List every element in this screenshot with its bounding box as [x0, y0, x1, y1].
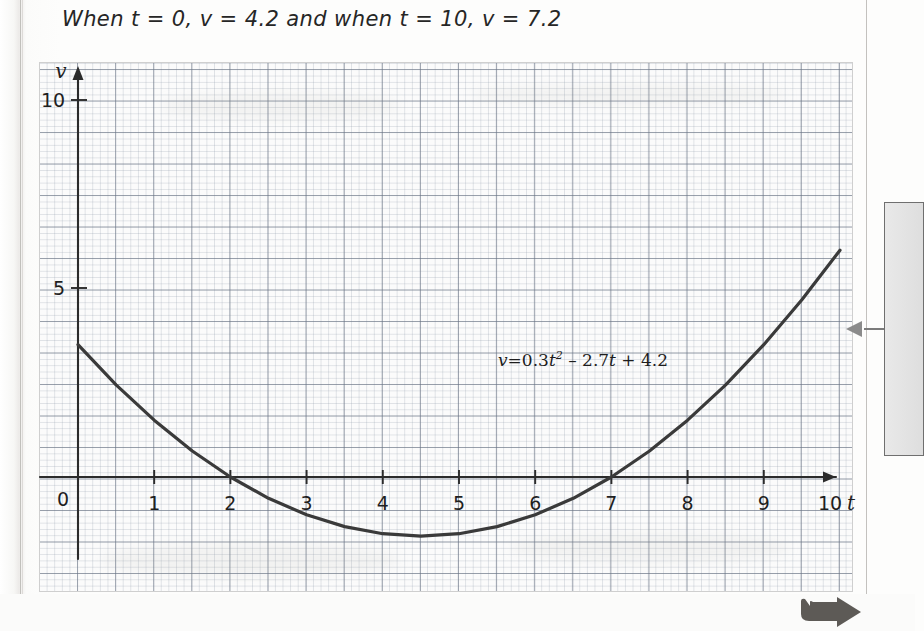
- graph-plot: 0 1 2 3 4 5 6 7 8 9 10 5 10 v t: [39, 62, 853, 592]
- equation-minus-sign: –: [568, 350, 577, 370]
- x-tick-label-9: 9: [758, 492, 770, 514]
- x-tick-label-3: 3: [301, 492, 313, 514]
- x-axis-label: t: [847, 491, 856, 515]
- page-edge-right: [866, 0, 867, 631]
- x-axis-arrowhead: [823, 472, 836, 483]
- x-tick-label-6: 6: [529, 492, 541, 514]
- y-tick-label-10: 10: [41, 89, 65, 111]
- x-tick-label-4: 4: [377, 492, 389, 514]
- equation-lhs: v: [498, 350, 508, 370]
- equation-plus-sign: +: [621, 350, 635, 370]
- x-tick-label-5: 5: [453, 492, 465, 514]
- equation-variable-t-squared: t: [549, 350, 556, 370]
- equation-equals: =: [508, 350, 522, 370]
- page-bottom-margin: [0, 594, 915, 631]
- x-tick-label-7: 7: [605, 492, 617, 514]
- equation-coefficient-b: 2.7: [582, 350, 609, 370]
- equation-constant-c: 4.2: [641, 350, 668, 370]
- x-tick-label-1: 1: [148, 492, 160, 514]
- left-arrow-icon: [846, 321, 862, 337]
- y-tick-label-5: 5: [53, 277, 65, 299]
- x-tick-label-0: 0: [57, 488, 69, 510]
- curve-equation-label: v=0.3t2 – 2.7t + 4.2: [498, 349, 668, 370]
- page-gutter-line-left: [20, 0, 21, 631]
- y-axis-label: v: [55, 59, 67, 83]
- x-tick-label-10: 10: [818, 492, 842, 514]
- equation-coefficient-a: 0.3: [522, 350, 549, 370]
- x-tick-label-8: 8: [682, 492, 694, 514]
- page-title: When t = 0, v = 4.2 and when t = 10, v =…: [62, 2, 762, 36]
- callout-box: [884, 202, 924, 456]
- right-arrow-icon[interactable]: [797, 596, 865, 628]
- equation-variable-t: t: [609, 350, 616, 370]
- x-tick-label-2: 2: [224, 492, 236, 514]
- y-axis-arrowhead: [73, 66, 84, 80]
- equation-exponent: 2: [556, 349, 563, 362]
- page-gutter-line-left-secondary: [22, 0, 23, 631]
